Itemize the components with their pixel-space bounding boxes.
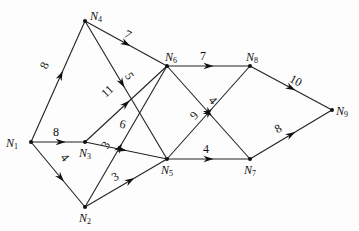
node-dot-icon xyxy=(83,19,87,23)
network-graph: 88475116337494108N1N2N3N4N5N6N7N8N9 xyxy=(0,0,359,231)
node-dot-icon xyxy=(29,140,33,144)
edge-weight-label: 8 xyxy=(53,125,59,139)
edge-weight-label: 4 xyxy=(203,142,209,156)
node-dot-icon xyxy=(165,64,169,68)
edge-n6-n8: 7 xyxy=(167,49,250,69)
node-n2: N2 xyxy=(78,205,91,226)
edge-weight-label: 3 xyxy=(98,139,113,151)
node-dot-icon xyxy=(83,140,87,144)
edge-line xyxy=(85,66,167,207)
edge-weight-label: 3 xyxy=(109,169,121,184)
node-label: N6 xyxy=(164,50,177,65)
node-label: N1 xyxy=(5,136,18,151)
node-dot-icon xyxy=(165,157,169,161)
edge-line xyxy=(31,142,85,207)
node-dot-icon xyxy=(248,157,252,161)
edge-line xyxy=(85,159,167,207)
node-n9: N9 xyxy=(330,104,348,119)
node-n7: N7 xyxy=(243,157,256,178)
edge-weight-label: 7 xyxy=(200,49,206,63)
network-diagram: 88475116337494108N1N2N3N4N5N6N7N8N9 xyxy=(0,0,359,231)
edge-weight-label: 7 xyxy=(122,27,134,42)
arrow-icon xyxy=(124,178,134,186)
node-n4: N4 xyxy=(83,9,102,24)
node-dot-icon xyxy=(248,64,252,68)
node-dot-icon xyxy=(330,108,334,112)
node-label: N9 xyxy=(335,104,348,119)
edge-n1-n4: 8 xyxy=(31,21,85,142)
edge-n8-n9: 10 xyxy=(250,66,332,110)
edge-n1-n3: 8 xyxy=(31,125,85,145)
edge-n4-n6: 7 xyxy=(85,21,167,66)
node-label: N3 xyxy=(78,146,91,161)
edge-line xyxy=(31,21,85,142)
edge-weight-label: 9 xyxy=(187,108,201,122)
edge-weight-label: 8 xyxy=(272,121,284,136)
edge-n2-n6: 3 xyxy=(85,66,167,207)
node-n8: N8 xyxy=(245,50,258,68)
edge-weight-label: 11 xyxy=(98,82,116,100)
node-dot-icon xyxy=(83,205,87,209)
edge-weight-label: 6 xyxy=(118,117,127,132)
edge-weight-label: 4 xyxy=(58,151,73,165)
edge-weight-label: 4 xyxy=(206,93,220,107)
edge-n2-n5: 3 xyxy=(85,159,167,207)
edge-n7-n9: 8 xyxy=(250,110,332,159)
node-label: N7 xyxy=(243,163,256,178)
node-label: N5 xyxy=(160,163,173,178)
node-n5: N5 xyxy=(160,157,173,178)
node-label: N2 xyxy=(78,211,91,226)
node-label: N8 xyxy=(245,50,258,65)
node-label: N4 xyxy=(89,9,102,24)
edge-n1-n2: 4 xyxy=(31,142,85,207)
arrow-icon xyxy=(285,132,295,140)
node-n1: N1 xyxy=(5,136,33,151)
edge-weight-label: 8 xyxy=(37,60,52,71)
edge-weight-label: 5 xyxy=(122,70,137,82)
node-n6: N6 xyxy=(164,50,177,68)
